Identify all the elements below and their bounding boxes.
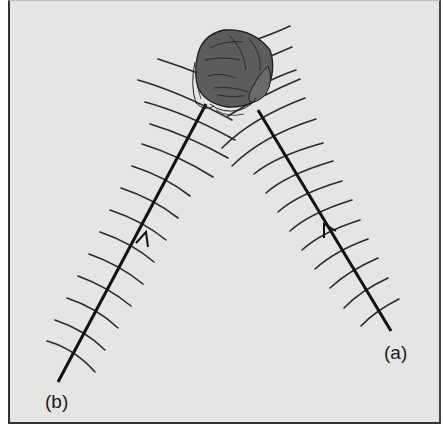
ray-a (258, 110, 391, 331)
head-illustration (193, 30, 273, 116)
wavefronts-b (47, 59, 235, 372)
ray-b (58, 104, 206, 382)
label-b: (b) (45, 392, 68, 411)
sound-wave-diagram (0, 0, 443, 427)
label-a: (a) (384, 343, 407, 362)
